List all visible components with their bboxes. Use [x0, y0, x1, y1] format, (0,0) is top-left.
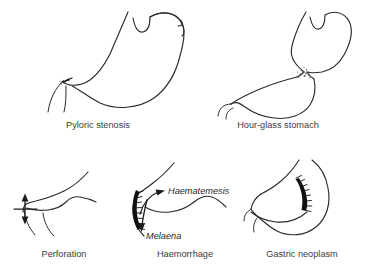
greater-curvature-hourglass: [231, 79, 315, 118]
duodenum-outline-pyloric-stenosis: [48, 82, 62, 112]
duodenum-second-limb-perforation: [43, 213, 54, 236]
duodenum-outline-neoplasm: [244, 210, 250, 221]
caption-haemorrhage: Haemorrhage: [157, 249, 213, 259]
antrum-lower-border-perforation: [26, 197, 96, 211]
perforation-arrow: [14, 194, 37, 225]
panel-hour-glass-stomach: Hour-glass stomach: [218, 12, 351, 130]
annotation-haematemesis: Haematemesis: [168, 186, 230, 196]
stomach-outline-perforation: [26, 172, 88, 204]
greater-curvature-neoplasm: [251, 160, 329, 235]
annotation-melaena: Melaena: [146, 231, 181, 241]
greater-curvature-haemorrhage: [145, 196, 226, 212]
greater-curvature-pyloric-stenosis: [150, 13, 184, 36]
panel-haemorrhage: Haematemesis Melaena Haemorrhage: [133, 163, 230, 259]
antrum-border-neoplasm: [251, 212, 307, 222]
antrum-upper-border-hourglass: [231, 77, 297, 104]
duodenum-second-limb-hourglass: [226, 108, 233, 119]
caption-gastric-neoplasm: Gastric neoplasm: [266, 249, 338, 259]
figure-complications-of-peptic-ulcer: Pyloric stenosis: [0, 0, 371, 268]
stomach-outline-neoplasm: [261, 160, 299, 194]
caption-pyloric-stenosis: Pyloric stenosis: [66, 120, 130, 130]
panel-gastric-neoplasm: Gastric neoplasm: [244, 160, 338, 259]
fundus-outline-hourglass: [291, 12, 306, 72]
cardia-notch-hourglass: [307, 12, 351, 72]
stomach-outline-pyloric-stenosis: [70, 12, 128, 85]
duodenum-second-limb-neoplasm: [254, 218, 257, 232]
caption-perforation: Perforation: [42, 249, 87, 259]
neoplasm-lesion: [296, 176, 312, 212]
panel-perforation: Perforation: [14, 172, 96, 259]
lesser-curvature-neoplasm: [251, 194, 261, 209]
caption-hour-glass-stomach: Hour-glass stomach: [237, 120, 319, 130]
panel-pyloric-stenosis: Pyloric stenosis: [48, 12, 184, 130]
duodenum-second-limb-pyloric-stenosis: [64, 86, 66, 112]
stomach-right-wall-pyloric-stenosis: [72, 21, 184, 107]
